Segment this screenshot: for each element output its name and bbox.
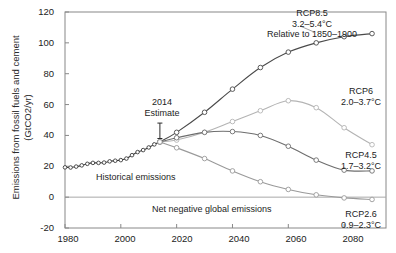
x-tick-2000: 2000 bbox=[105, 233, 145, 244]
data-point-marker bbox=[230, 87, 235, 92]
annotation-rcp85-baseline: Relative to 1850–1900 bbox=[237, 29, 387, 40]
data-point-marker bbox=[202, 156, 207, 161]
data-point-marker bbox=[69, 166, 73, 170]
plot-frame bbox=[65, 12, 386, 228]
series-line bbox=[65, 142, 160, 168]
annotation-rcp26-range: 0.9–2.3°C bbox=[329, 220, 393, 231]
data-point-marker bbox=[74, 165, 78, 169]
data-point-marker bbox=[314, 158, 319, 163]
data-point-marker bbox=[147, 146, 151, 150]
data-point-marker bbox=[136, 150, 140, 154]
annotation-rcp6-range: 2.0–3.7°C bbox=[329, 97, 393, 108]
x-tick-2080: 2080 bbox=[333, 233, 373, 244]
data-point-marker bbox=[286, 187, 291, 192]
annotation-net-negative: Net negative global emissions bbox=[152, 204, 272, 215]
annotation-rcp85: RCP8.5 3.2–5.4°C Relative to 1850–1900 bbox=[237, 8, 387, 40]
data-point-marker bbox=[202, 130, 207, 135]
data-point-marker bbox=[108, 160, 112, 164]
data-point-marker bbox=[174, 130, 179, 135]
data-point-marker bbox=[258, 133, 263, 138]
data-point-marker bbox=[91, 161, 95, 165]
data-point-marker bbox=[314, 105, 319, 110]
y-tick-0: 0 bbox=[24, 191, 54, 202]
data-point-marker bbox=[174, 135, 179, 140]
data-point-marker bbox=[286, 98, 291, 103]
y-tick-minus-20: -20 bbox=[22, 222, 54, 233]
data-point-marker bbox=[258, 65, 263, 70]
annotation-rcp45: RCP4.5 1.7–3.2°C bbox=[329, 150, 393, 171]
data-point-marker bbox=[258, 179, 263, 184]
data-point-marker bbox=[63, 166, 67, 170]
data-point-marker bbox=[97, 161, 101, 165]
annotation-rcp85-name: RCP8.5 bbox=[237, 8, 387, 19]
data-point-marker bbox=[80, 164, 84, 168]
data-point-marker bbox=[286, 50, 291, 55]
x-tick-1980: 1980 bbox=[48, 233, 88, 244]
x-tick-2060: 2060 bbox=[276, 233, 316, 244]
data-point-marker bbox=[102, 161, 106, 165]
annotation-2014-pointer bbox=[157, 123, 162, 138]
y-tick-120: 120 bbox=[24, 6, 54, 17]
data-point-marker bbox=[342, 125, 347, 130]
y-tick-20: 20 bbox=[24, 160, 54, 171]
annotation-historical-emissions: Historical emissions bbox=[96, 172, 176, 183]
annotation-2014-estimate: 2014 Estimate bbox=[130, 97, 194, 118]
data-point-marker bbox=[141, 148, 145, 152]
data-point-marker bbox=[113, 159, 117, 163]
data-point-marker bbox=[370, 197, 375, 202]
x-tick-2020: 2020 bbox=[162, 233, 202, 244]
y-tick-40: 40 bbox=[24, 129, 54, 140]
annotation-rcp85-range: 3.2–5.4°C bbox=[237, 19, 387, 30]
data-point-marker bbox=[230, 169, 235, 174]
data-point-marker bbox=[314, 193, 319, 198]
data-point-marker bbox=[230, 119, 235, 124]
annotation-rcp6-name: RCP6 bbox=[329, 86, 393, 97]
data-point-marker bbox=[342, 196, 347, 201]
annotation-rcp45-range: 1.7–3.2°C bbox=[329, 161, 393, 172]
data-point-marker bbox=[130, 153, 134, 157]
data-point-marker bbox=[158, 140, 163, 145]
data-point-marker bbox=[202, 110, 207, 115]
series-historical-emissions bbox=[63, 140, 162, 169]
data-point-marker bbox=[370, 142, 375, 147]
y-tick-100: 100 bbox=[24, 37, 54, 48]
data-point-marker bbox=[153, 143, 157, 147]
data-point-marker bbox=[174, 145, 179, 150]
data-point-marker bbox=[86, 162, 90, 166]
y-tick-60: 60 bbox=[24, 99, 54, 110]
data-point-marker bbox=[314, 41, 319, 46]
annotation-2014-estimate-word: Estimate bbox=[130, 108, 194, 119]
annotation-rcp45-name: RCP4.5 bbox=[329, 150, 393, 161]
data-point-marker bbox=[230, 129, 235, 134]
x-tick-2040: 2040 bbox=[219, 233, 259, 244]
data-point-marker bbox=[125, 157, 129, 161]
annotation-rcp6: RCP6 2.0–3.7°C bbox=[329, 86, 393, 107]
emissions-scenarios-figure: Emissions from fossil fuels and cement (… bbox=[0, 0, 396, 253]
data-point-marker bbox=[286, 144, 291, 149]
y-axis-title-line1: Emissions from fossil fuels and cement bbox=[10, 8, 22, 228]
y-tick-80: 80 bbox=[24, 68, 54, 79]
annotation-2014-year: 2014 bbox=[130, 97, 194, 108]
data-point-marker bbox=[258, 108, 263, 113]
annotation-rcp26-name: RCP2.6 bbox=[329, 209, 393, 220]
annotation-rcp26: RCP2.6 0.9–2.3°C bbox=[329, 209, 393, 230]
data-point-marker bbox=[119, 158, 123, 162]
